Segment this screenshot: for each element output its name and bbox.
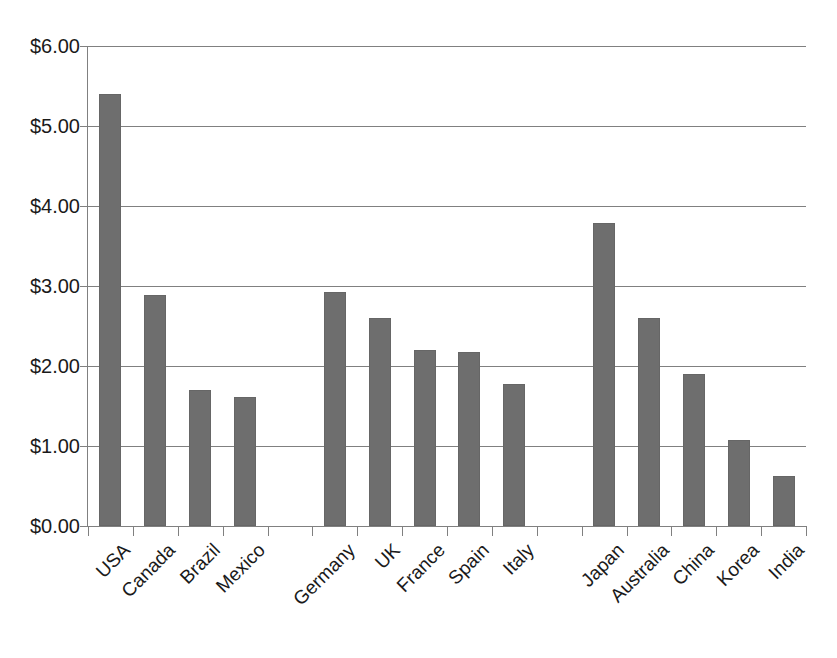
y-axis-tick-label: $1.00 xyxy=(8,436,80,456)
bar xyxy=(728,440,750,526)
bar xyxy=(458,352,480,526)
bar xyxy=(414,350,436,526)
y-axis-tick-label: $0.00 xyxy=(8,516,80,536)
x-axis-tick-mark xyxy=(312,527,313,536)
bar xyxy=(773,476,795,526)
x-axis-tick-mark xyxy=(492,527,493,536)
bar xyxy=(144,295,166,526)
bar xyxy=(503,384,525,526)
bar xyxy=(638,318,660,526)
x-axis-tick-label: India xyxy=(764,540,807,583)
bar-chart: $0.00$1.00$2.00$3.00$4.00$5.00$6.00 USAC… xyxy=(0,0,837,658)
x-axis-tick-mark xyxy=(716,527,717,536)
bar xyxy=(593,223,615,526)
y-axis-tick-labels: $0.00$1.00$2.00$3.00$4.00$5.00$6.00 xyxy=(0,0,80,658)
x-axis-tick-mark xyxy=(627,527,628,536)
x-axis-tick-mark xyxy=(357,527,358,536)
y-axis-tick-label: $4.00 xyxy=(8,196,80,216)
x-axis-tick-mark xyxy=(268,527,269,536)
x-axis-tick-label: Korea xyxy=(713,540,762,589)
bar xyxy=(324,292,346,526)
bar xyxy=(99,94,121,526)
bar xyxy=(369,318,391,526)
x-axis-tick-mark xyxy=(88,527,89,536)
x-axis-tick-mark xyxy=(223,527,224,536)
x-axis-tick-label: China xyxy=(669,540,718,589)
x-axis-tick-mark xyxy=(671,527,672,536)
x-axis-tick-label: France xyxy=(393,540,448,595)
x-axis-tick-mark xyxy=(178,527,179,536)
x-axis-tick-mark xyxy=(582,527,583,536)
x-axis-tick-mark xyxy=(402,527,403,536)
bar xyxy=(234,397,256,526)
x-axis-tick-mark xyxy=(133,527,134,536)
x-axis-tick-mark xyxy=(537,527,538,536)
bar xyxy=(189,390,211,526)
x-axis-tick-mark xyxy=(761,527,762,536)
x-axis-tick-label: Spain xyxy=(445,540,493,588)
bar xyxy=(683,374,705,526)
x-axis-tick-label: Italy xyxy=(500,540,538,578)
x-axis-tick-label: Germany xyxy=(290,540,359,609)
y-axis-tick-label: $5.00 xyxy=(8,116,80,136)
x-axis-tick-label: Mexico xyxy=(213,540,269,596)
x-axis-tick-label: UK xyxy=(371,540,403,572)
x-axis-tick-mark xyxy=(447,527,448,536)
plot-area xyxy=(88,46,806,526)
x-axis-tick-mark xyxy=(806,527,807,536)
y-axis-tick-label: $2.00 xyxy=(8,356,80,376)
y-axis-tick-label: $3.00 xyxy=(8,276,80,296)
y-axis-tick-label: $6.00 xyxy=(8,36,80,56)
